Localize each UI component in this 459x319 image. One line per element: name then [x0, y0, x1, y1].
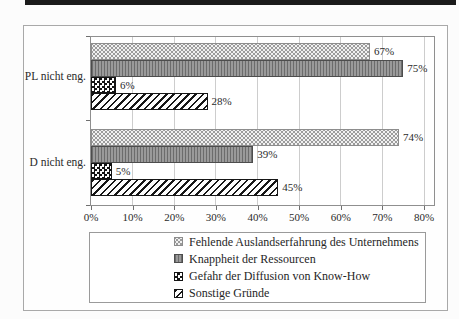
- legend-item: Sonstige Gründe: [174, 285, 425, 302]
- bar-value-label: 5%: [116, 165, 131, 178]
- x-axis-tick-20%: [174, 206, 175, 210]
- x-tick-label: 10%: [113, 211, 153, 224]
- bar-value-label: 6%: [120, 79, 135, 92]
- x-tick-label: 20%: [154, 211, 194, 224]
- bar-pl-nicht-eng--s3: [91, 93, 208, 110]
- category-label: D nicht eng.: [24, 155, 86, 169]
- x-axis-tick-30%: [216, 206, 217, 210]
- category-axis-tick: [86, 120, 90, 121]
- bar-pl-nicht-eng--s2: [91, 77, 116, 94]
- bar-value-label: 67%: [374, 45, 394, 58]
- x-tick-label: 50%: [279, 211, 319, 224]
- bar-d-nicht-eng--s1: [91, 146, 253, 163]
- x-axis-tick-70%: [382, 206, 383, 210]
- x-tick-label: 0%: [71, 211, 111, 224]
- x-tick-label: 30%: [196, 211, 236, 224]
- x-axis-tick-80%: [424, 206, 425, 210]
- scanned-page: 67%75%6%28%74%39%5%45% Fehlende Auslands…: [0, 0, 459, 319]
- legend-swatch-light-dot-grid: [174, 237, 183, 246]
- legend-label: Sonstige Gründe: [189, 286, 269, 300]
- bar-pl-nicht-eng--s1: [91, 60, 403, 77]
- legend-label: Fehlende Auslandserfahrung des Unternehm…: [189, 235, 419, 249]
- bar-d-nicht-eng--s3: [91, 179, 278, 196]
- chart-frame: 67%75%6%28%74%39%5%45% Fehlende Auslands…: [23, 25, 448, 311]
- legend-item: Gefahr der Diffusion von Know-How: [174, 268, 425, 285]
- x-axis-tick-0%: [91, 206, 92, 210]
- legend: Fehlende Auslandserfahrung des Unternehm…: [89, 232, 426, 303]
- category-axis-tick: [86, 205, 90, 206]
- bar-value-label: 75%: [407, 62, 427, 75]
- bar-pl-nicht-eng--s0: [91, 43, 370, 60]
- category-axis-tick: [86, 36, 90, 37]
- x-axis-tick-10%: [133, 206, 134, 210]
- plot-area: 67%75%6%28%74%39%5%45%: [90, 36, 435, 206]
- x-axis-tick-40%: [258, 206, 259, 210]
- x-tick-label: 40%: [238, 211, 278, 224]
- x-axis-tick-60%: [341, 206, 342, 210]
- bar-value-label: 28%: [212, 95, 232, 108]
- category-label: PL nicht eng.: [24, 69, 86, 83]
- bar-d-nicht-eng--s0: [91, 129, 399, 146]
- x-tick-label: 80%: [404, 211, 444, 224]
- bar-value-label: 45%: [282, 181, 302, 194]
- legend-swatch-black-white-checkerboard: [174, 272, 183, 281]
- x-axis-tick-50%: [299, 206, 300, 210]
- legend-swatch-diagonal-stripes: [174, 289, 183, 298]
- page-header-rule: [25, 0, 456, 5]
- bar-value-label: 74%: [403, 131, 423, 144]
- legend-label: Gefahr der Diffusion von Know-How: [189, 269, 370, 283]
- legend-label: Knappheit der Ressourcen: [189, 252, 316, 266]
- legend-swatch-gray-vertical-lines: [174, 254, 183, 263]
- legend-item: Fehlende Auslandserfahrung des Unternehm…: [174, 233, 425, 250]
- legend-item: Knappheit der Ressourcen: [174, 250, 425, 267]
- bar-d-nicht-eng--s2: [91, 163, 112, 180]
- x-tick-label: 70%: [362, 211, 402, 224]
- x-tick-label: 60%: [321, 211, 361, 224]
- bar-value-label: 39%: [257, 148, 277, 161]
